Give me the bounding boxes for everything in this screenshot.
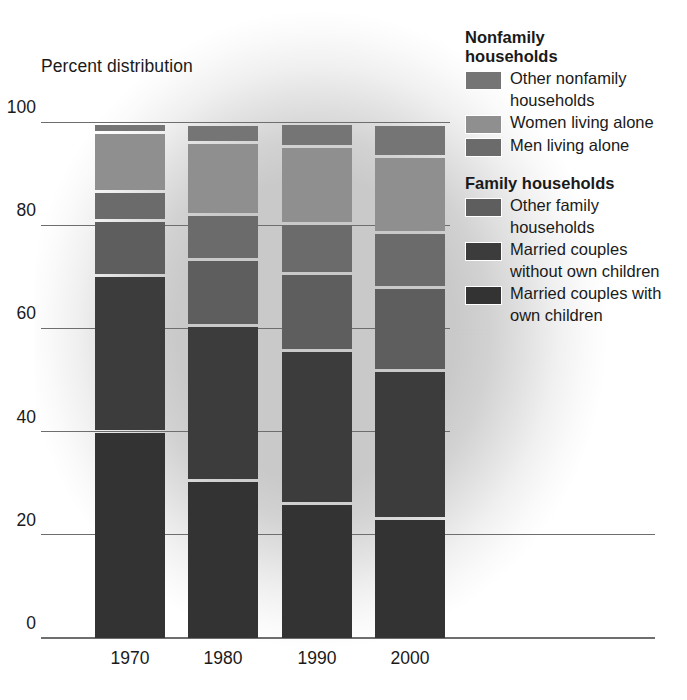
legend-swatch-other_family <box>465 198 502 217</box>
y-axis-tick-label-20: 20 <box>0 510 36 531</box>
chart-legend: Nonfamily households Other nonfamily hou… <box>458 28 684 327</box>
legend-item-other_nonfamily: Other nonfamily households <box>458 68 684 111</box>
legend-group-title-family: Family households <box>465 174 684 193</box>
bar-segment-2000-women_alone <box>375 158 445 231</box>
legend-swatch-women_alone <box>465 115 502 134</box>
bar-segment-1990-men_alone <box>282 225 352 272</box>
legend-swatch-married_without <box>465 242 502 261</box>
bar-segment-1970-married_without <box>95 277 165 430</box>
y-axis-tick-label-100: 100 <box>0 97 36 118</box>
bar-segment-2000-other_family <box>375 289 445 369</box>
bar-segment-2000-married_without <box>375 372 445 517</box>
bar-segment-1990-other_nonfamily <box>282 125 352 146</box>
bar-1980 <box>188 122 258 638</box>
bar-segment-1990-other_family <box>282 275 352 348</box>
legend-group-title-nonfamily: Nonfamily households <box>465 28 684 66</box>
legend-items-nonfamily: Other nonfamily householdsWomen living a… <box>458 68 684 157</box>
bar-segment-1980-other_nonfamily <box>188 126 258 142</box>
bar-segment-1990-women_alone <box>282 148 352 222</box>
legend-label-married_without: Married couples without own children <box>510 239 684 282</box>
x-axis-tick-label-1970: 1970 <box>85 648 175 669</box>
legend-item-other_family: Other family households <box>458 195 684 238</box>
legend-label-women_alone: Women living alone <box>510 112 654 134</box>
legend-group-title-nonfamily-line2: households <box>465 47 684 66</box>
bar-segment-2000-other_nonfamily <box>375 126 445 155</box>
legend-label-married_with: Married couples with own children <box>510 283 684 326</box>
legend-item-married_without: Married couples without own children <box>458 239 684 282</box>
bar-segment-1980-married_without <box>188 327 258 478</box>
legend-item-women_alone: Women living alone <box>458 112 684 134</box>
bar-1990 <box>282 122 352 638</box>
bar-2000 <box>375 122 445 638</box>
bar-segment-1970-married_with <box>95 433 165 638</box>
y-axis-tick-label-40: 40 <box>0 407 36 428</box>
bar-segment-1970-women_alone <box>95 134 165 190</box>
legend-group-title-nonfamily-line1: Nonfamily <box>465 28 684 47</box>
legend-swatch-other_nonfamily <box>465 71 502 90</box>
x-axis-tick-label-1990: 1990 <box>272 648 362 669</box>
legend-label-other_nonfamily: Other nonfamily households <box>510 68 684 111</box>
bar-segment-1990-married_with <box>282 505 352 638</box>
legend-swatch-men_alone <box>465 138 502 157</box>
bar-segment-1990-married_without <box>282 352 352 503</box>
legend-item-married_with: Married couples with own children <box>458 283 684 326</box>
x-axis-tick-label-1980: 1980 <box>178 648 268 669</box>
chart-axis-title: Percent distribution <box>41 56 193 77</box>
bar-segment-1970-other_nonfamily <box>95 125 165 131</box>
bar-1970 <box>95 122 165 638</box>
legend-label-other_family: Other family households <box>510 195 684 238</box>
x-axis-tick-label-2000: 2000 <box>365 648 455 669</box>
y-axis-tick-label-80: 80 <box>0 200 36 221</box>
legend-item-men_alone: Men living alone <box>458 135 684 157</box>
bar-segment-1970-other_family <box>95 222 165 274</box>
legend-label-men_alone: Men living alone <box>510 135 629 157</box>
y-axis-tick-label-60: 60 <box>0 303 36 324</box>
bar-segment-1980-men_alone <box>188 216 258 257</box>
bar-segment-1970-men_alone <box>95 193 165 219</box>
bar-segment-2000-married_with <box>375 520 445 638</box>
legend-items-family: Other family householdsMarried couples w… <box>458 195 684 326</box>
bar-segment-1980-other_family <box>188 261 258 325</box>
bar-segment-2000-men_alone <box>375 234 445 286</box>
stacked-bar-chart: Percent distribution 0204060801001970198… <box>0 0 687 700</box>
legend-swatch-married_with <box>465 286 502 305</box>
y-axis-tick-label-0: 0 <box>0 613 36 634</box>
bar-segment-1980-women_alone <box>188 144 258 213</box>
bar-segment-1980-married_with <box>188 482 258 638</box>
